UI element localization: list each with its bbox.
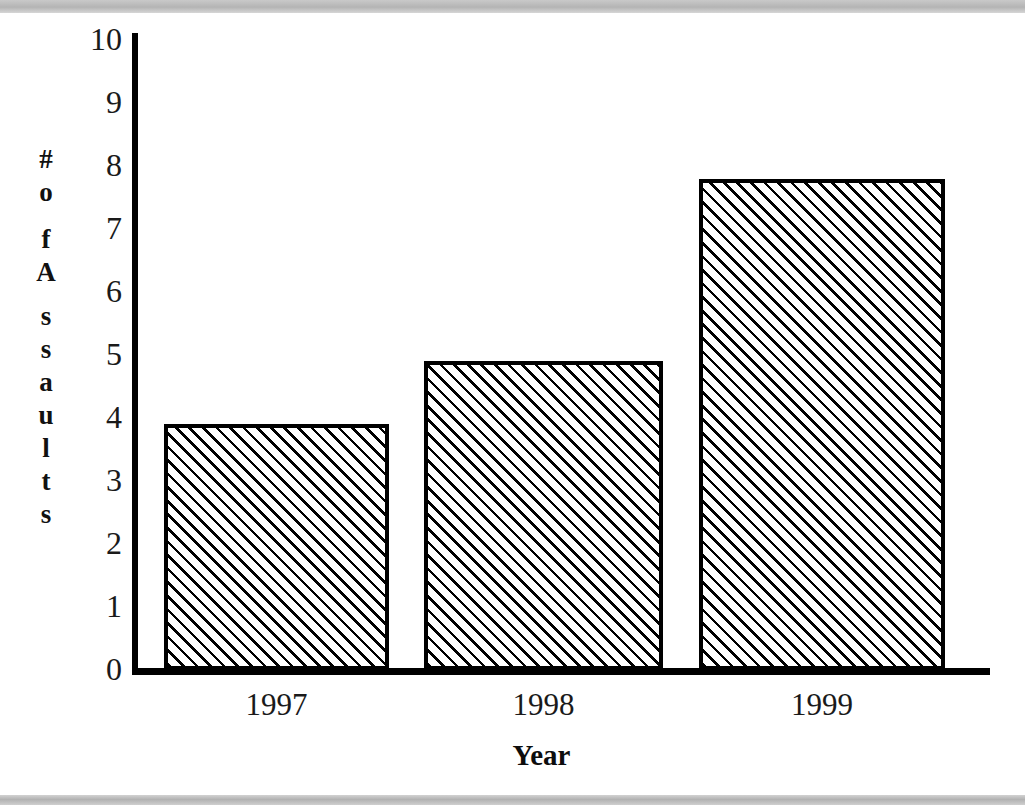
x-axis-title-text: Year [513, 738, 571, 772]
y-axis-title-glyph: u [24, 399, 68, 432]
y-axis-tick-label: 9 [0, 86, 122, 118]
y-axis-title: #ofAssaults [24, 143, 68, 531]
y-axis-title-glyph: s [24, 498, 68, 531]
y-axis-title-glyph: A [24, 256, 68, 300]
x-axis-tick-label: 1998 [424, 688, 663, 722]
y-axis-tick-label: 0 [0, 653, 122, 685]
x-axis-tick-label: 1999 [699, 688, 945, 722]
y-axis-title-glyph: # [24, 143, 68, 176]
y-axis-title-glyph: o [24, 176, 68, 223]
y-axis-title-glyph: a [24, 366, 68, 399]
y-axis-tick-label: 2 [0, 527, 122, 559]
x-axis-title: Year [0, 738, 1025, 772]
bar-1998[interactable] [424, 361, 663, 670]
bar-1999[interactable] [699, 179, 945, 670]
chart-page: 109876543210 #ofAssaults 199719981999 Ye… [0, 0, 1025, 805]
x-axis-tick-label: 1997 [164, 688, 389, 722]
y-axis-line [132, 33, 138, 674]
y-axis-title-glyph: s [24, 333, 68, 366]
y-axis-tick-label: 10 [0, 23, 122, 55]
y-axis-title-glyph: f [24, 223, 68, 256]
bar-1997[interactable] [164, 424, 389, 670]
y-axis-title-glyph: l [24, 432, 68, 465]
y-axis-tick-label: 1 [0, 590, 122, 622]
y-axis-title-glyph: t [24, 465, 68, 498]
y-axis-title-glyph: s [24, 300, 68, 333]
bar-chart-plot-area: 109876543210 #ofAssaults 199719981999 Ye… [0, 0, 1025, 805]
